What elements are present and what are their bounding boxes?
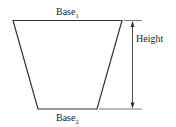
base2-label: Base2 — [56, 112, 79, 125]
base1-label: Base1 — [56, 6, 79, 19]
trapezoid-diagram: Base1 Base2 Height — [0, 0, 176, 127]
trapezoid-shape — [13, 21, 122, 110]
height-label: Height — [136, 33, 163, 44]
arrow-up-icon — [131, 21, 135, 27]
arrow-down-icon — [131, 103, 135, 109]
